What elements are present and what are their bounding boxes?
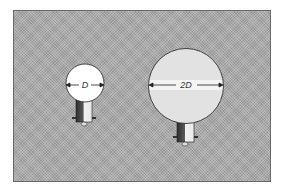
small-bulb: D [66, 64, 104, 126]
bulb-comparison-diagram: D 2D [0, 0, 283, 192]
large-bulb-diameter-label: 2D [179, 80, 192, 90]
small-bulb-base [76, 100, 92, 122]
small-bulb-diameter-label: D [82, 80, 89, 90]
large-bulb: 2D [148, 49, 224, 147]
